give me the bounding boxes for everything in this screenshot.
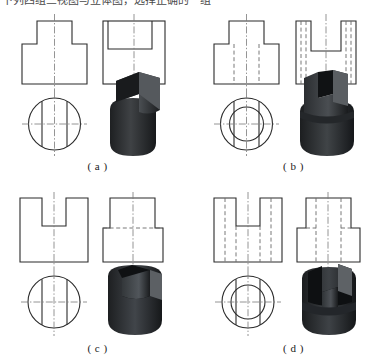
option-a-drawing — [0, 6, 195, 158]
c-side-view — [103, 192, 163, 272]
b-isometric-solid — [300, 70, 354, 156]
option-a[interactable]: ( a ) — [0, 6, 195, 184]
option-d-caption: ( d ) — [196, 342, 391, 354]
option-b[interactable]: ( b ) — [196, 6, 391, 184]
options-grid: ( a ) — [0, 6, 391, 362]
d-isometric-solid — [302, 264, 356, 335]
option-a-caption: ( a ) — [0, 160, 195, 172]
a-top-view — [22, 92, 87, 156]
c-isometric-solid — [108, 265, 162, 335]
option-c-drawing — [0, 184, 195, 339]
d-top-view — [215, 272, 281, 336]
option-c-caption: ( c ) — [0, 342, 195, 354]
d-side-view — [297, 192, 360, 272]
option-d[interactable]: ( d ) — [196, 184, 391, 362]
b-top-view — [214, 92, 279, 156]
option-c[interactable]: ( c ) — [0, 184, 195, 362]
b-front-view — [214, 14, 279, 92]
d-front-view — [214, 192, 282, 272]
a-isometric-solid — [110, 72, 160, 156]
option-b-caption: ( b ) — [196, 160, 391, 172]
option-d-drawing — [196, 184, 391, 339]
c-front-view — [20, 192, 88, 272]
a-front-view — [22, 14, 87, 92]
c-top-view — [21, 272, 87, 336]
option-b-drawing — [196, 6, 391, 158]
